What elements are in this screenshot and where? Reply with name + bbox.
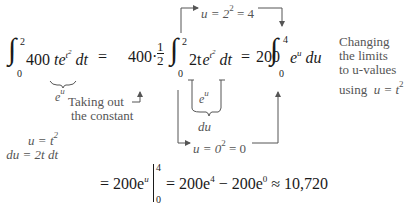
eval-lower: 0: [156, 194, 161, 205]
step3-upper-limit: 4: [283, 34, 288, 45]
lhs-eu-label: eu: [55, 86, 65, 105]
lhs-upper-limit: 2: [20, 36, 25, 47]
eval-bar: [153, 164, 154, 202]
frac-den: 2: [157, 53, 164, 67]
lower-limit-note: u = 02 = 0: [193, 136, 246, 156]
step2-fraction: 1 2: [157, 40, 164, 67]
lhs-differential: dt: [76, 51, 88, 68]
frac-num: 1: [157, 40, 164, 53]
final-evaluation: = 200eu: [100, 174, 149, 193]
equals-1: =: [98, 48, 107, 66]
step3-lower-limit: 0: [279, 68, 284, 79]
equals-2: =: [241, 48, 250, 66]
step3-integral: ∫: [270, 34, 278, 64]
step2-lower-limit: 0: [178, 68, 183, 79]
lhs-exp: t2: [66, 50, 72, 60]
bracket-du-label: du: [198, 120, 211, 134]
integral-sign: ∫: [8, 32, 16, 65]
lhs-lower-limit: 0: [17, 68, 22, 79]
final-result: = 200e4 − 200e0 ≈ 10,720: [166, 174, 328, 193]
taking-out-note: Taking out the constant: [68, 95, 133, 123]
upper-limit-note: u = 22 = 4: [201, 1, 254, 21]
bracket-eu-label: eu: [199, 88, 209, 107]
eval-upper: 4: [156, 162, 161, 173]
step2-integrand: 2tet2 dt: [189, 48, 232, 69]
step2-coef: 400·: [128, 48, 157, 66]
step2-upper-limit: 2: [182, 36, 187, 47]
substitution-note: u = t2 du = 2t dt: [6, 128, 58, 162]
changing-limits-note: Changing the limits to u-values using u …: [339, 35, 404, 97]
lhs-coef: 400: [26, 51, 50, 68]
lhs-integrand: 400 tet2 dt: [26, 48, 88, 69]
step3-integrand: eu du: [290, 48, 322, 67]
lhs-exp-base: e: [58, 51, 65, 68]
lhs-integral: ∫: [8, 34, 16, 64]
step2-integral: ∫: [170, 34, 178, 64]
